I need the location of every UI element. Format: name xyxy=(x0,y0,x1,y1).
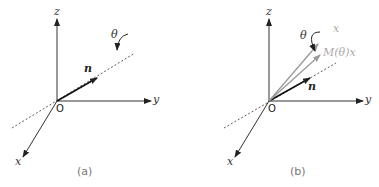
theta-label: θ xyxy=(111,28,118,41)
rotated-vector xyxy=(269,55,320,101)
panel-b xyxy=(224,19,363,157)
n-vector xyxy=(57,78,97,101)
panel-a xyxy=(12,19,151,157)
n-vector-label: n xyxy=(308,80,316,93)
x-axis xyxy=(235,101,269,157)
origin-label: O xyxy=(56,103,64,114)
z-axis-label: z xyxy=(266,5,272,18)
rotation-arrow-icon xyxy=(311,32,320,51)
rotation-axis-dashed xyxy=(12,53,135,128)
x-vector-label: x xyxy=(333,22,339,35)
rotated-vector-label: M(θ)x xyxy=(323,46,356,59)
n-vector-label: n xyxy=(84,62,92,75)
y-axis-label: y xyxy=(365,93,371,106)
theta-label: θ xyxy=(300,29,307,42)
rotation-arrow-icon xyxy=(117,34,128,50)
n-vector xyxy=(269,78,310,101)
y-axis-label: y xyxy=(153,93,159,106)
x-axis-label: x xyxy=(227,155,233,168)
z-axis-label: z xyxy=(54,5,60,18)
x-axis xyxy=(23,101,57,157)
caption-b: (b) xyxy=(290,165,306,178)
x-axis-label: x xyxy=(15,155,21,168)
origin-label: O xyxy=(268,103,276,114)
caption-a: (a) xyxy=(77,165,92,178)
